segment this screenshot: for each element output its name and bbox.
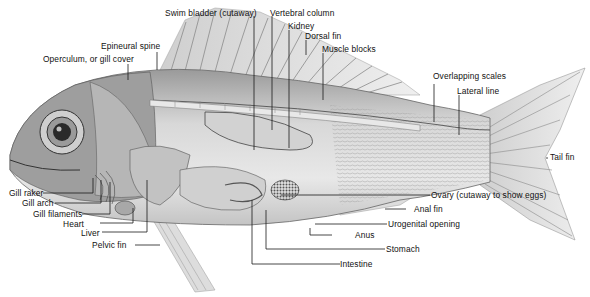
label-kidney: Kidney: [288, 21, 314, 31]
label-vertebral-column: Vertebral column: [270, 8, 334, 18]
label-muscle-blocks: Muscle blocks: [322, 44, 376, 54]
label-swim-bladder: Swim bladder (cutaway): [165, 8, 257, 18]
label-intestine: Intestine: [340, 259, 373, 269]
label-stomach: Stomach: [386, 244, 420, 254]
heart-shape: [115, 201, 135, 215]
label-anus: Anus: [355, 230, 375, 240]
label-gill-filaments: Gill filaments: [33, 209, 82, 219]
label-liver: Liver: [81, 228, 100, 238]
label-anal-fin: Anal fin: [414, 204, 443, 214]
label-epineural-spine: Epineural spine: [101, 41, 160, 51]
fish-anatomy-diagram: Swim bladder (cutaway) Vertebral column …: [0, 0, 590, 297]
label-overlapping-scales: Overlapping scales: [433, 71, 506, 81]
ovary-shape: [271, 180, 299, 200]
label-gill-arch: Gill arch: [22, 198, 54, 208]
fish-illustration: [0, 0, 590, 297]
pelvic-fin-shape: [150, 215, 215, 292]
label-urogenital-opening: Urogenital opening: [388, 219, 460, 229]
label-lateral-line: Lateral line: [457, 86, 499, 96]
label-pelvic-fin: Pelvic fin: [92, 240, 127, 250]
label-dorsal-fin: Dorsal fin: [305, 31, 341, 41]
eye: [40, 110, 84, 154]
label-tail-fin: Tail fin: [550, 152, 575, 162]
label-gill-raker: Gill raker: [9, 188, 44, 198]
label-ovary: Ovary (cutaway to show eggs): [431, 190, 546, 200]
label-operculum: Operculum, or gill cover: [43, 54, 134, 64]
